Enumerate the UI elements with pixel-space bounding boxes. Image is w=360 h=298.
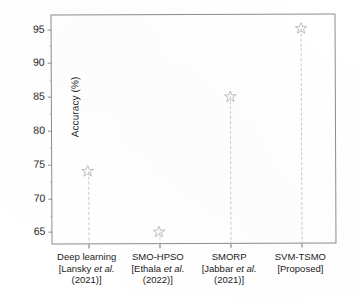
y-tick-label: 65 (34, 225, 46, 237)
y-tick-label: 95 (33, 22, 45, 34)
y-tick: 80 (52, 129, 335, 130)
star-marker-icon (153, 225, 166, 238)
y-minor-tick (52, 45, 335, 46)
y-tick-mark (48, 63, 52, 64)
y-tick-label: 80 (33, 124, 45, 136)
x-category-label-method: SVM-TSMO (252, 251, 348, 263)
star-marker-icon (294, 22, 307, 35)
y-tick: 75 (52, 163, 335, 164)
y-minor-tick-mark (50, 215, 52, 216)
plot-area: Accuracy (%) 65707580859095 (52, 14, 336, 243)
y-minor-tick (52, 112, 335, 113)
x-axis-ticks (52, 14, 335, 15)
x-category-label: SVM-TSMO[Proposed] (252, 251, 348, 274)
y-minor-tick (52, 79, 335, 80)
y-minor-tick-mark (50, 80, 52, 81)
x-category-label-year: (2021)] (181, 274, 277, 286)
star-marker-icon (223, 89, 236, 102)
plot-frame: Accuracy (%) 65707580859095 (50, 13, 336, 244)
y-tick-label: 70 (34, 191, 46, 203)
y-tick-mark (48, 198, 52, 199)
accuracy-comparison-figure: Accuracy (%) 65707580859095 Deep learnin… (0, 0, 360, 298)
y-minor-tick (52, 214, 335, 215)
y-minor-tick-mark (50, 46, 52, 47)
y-tick: 90 (52, 62, 335, 63)
y-tick-mark (48, 131, 52, 132)
data-point-stem (230, 96, 232, 245)
y-tick-mark (48, 232, 52, 233)
y-axis-minor-ticks (52, 14, 335, 15)
y-tick-label: 90 (33, 56, 45, 68)
x-category-label-citation: [Proposed] (252, 263, 348, 275)
y-minor-tick-mark (50, 181, 52, 182)
y-tick-label: 85 (33, 90, 45, 102)
y-tick: 70 (52, 197, 335, 198)
y-axis-ticks: 65707580859095 (52, 14, 335, 15)
data-point-stem (88, 171, 89, 245)
y-tick: 65 (52, 231, 335, 232)
y-tick-mark (48, 164, 52, 165)
y-minor-tick (52, 146, 335, 147)
y-tick-mark (48, 97, 52, 98)
y-tick: 85 (52, 96, 335, 97)
star-marker-icon (81, 165, 94, 178)
y-minor-tick (52, 180, 335, 181)
y-tick-mark (48, 29, 52, 30)
y-axis-title: Accuracy (%) (69, 52, 80, 162)
data-series-layer (52, 14, 335, 15)
data-point-stem (301, 28, 303, 244)
y-tick: 95 (52, 28, 335, 29)
y-minor-tick-mark (50, 114, 52, 115)
y-tick-label: 75 (33, 157, 45, 169)
y-minor-tick-mark (50, 148, 52, 149)
